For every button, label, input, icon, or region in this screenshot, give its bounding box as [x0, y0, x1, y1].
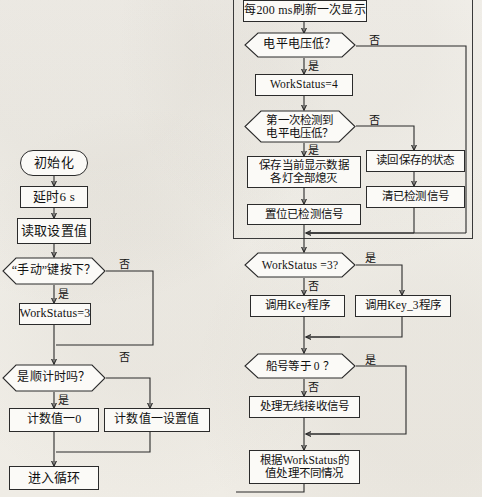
node-save-display-data: 保存当前显示数据 各灯全部熄灭 [247, 156, 361, 188]
node-process-wireless: 处理无线接收信号 [249, 396, 360, 418]
label-level-yes: 是 [308, 61, 319, 72]
node-count-setting: 计数值一设置值 [104, 408, 210, 432]
node-first-detect-decision: 第一次检测到 电平电压低？ [244, 110, 356, 143]
node-level-low-decision: 电平电压低？ [244, 32, 356, 58]
node-call-key3: 调用Key_3程序 [355, 295, 451, 317]
node-label: 船号等于 0 ？ [244, 353, 356, 379]
node-clear-detected-flag: 清已检测信号 [366, 186, 465, 208]
node-init: 初始化 [20, 150, 88, 176]
node-label: 电平电压低？ [244, 32, 356, 58]
label-ws3-no: 否 [308, 281, 319, 292]
node-call-key: 调用Key程序 [250, 295, 345, 317]
label-first-no: 否 [369, 115, 380, 126]
node-read-setting: 读取设置值 [17, 218, 91, 244]
node-label: 第一次检测到 电平电压低？ [244, 110, 356, 143]
node-workstatus-4: WorkStatus=4 [255, 74, 353, 96]
label-ship-yes: 是 [365, 355, 376, 366]
label-ship-no: 否 [308, 382, 319, 393]
label-count-yes: 是 [58, 395, 69, 406]
node-label: 是顺计时吗？ [2, 364, 106, 392]
label-count-no: 否 [119, 352, 130, 363]
node-set-detected-flag: 置位已检测信号 [247, 204, 361, 225]
node-delay: 延时6 s [20, 186, 88, 208]
node-refresh-display: 每200 ms刷新一次显示 [243, 0, 367, 22]
node-enter-loop: 进入循环 [9, 466, 99, 490]
node-workstatus-3: WorkStatus=3 [19, 303, 91, 325]
node-ship-number-decision: 船号等于 0 ？ [244, 353, 356, 379]
label-level-no: 否 [369, 35, 380, 46]
node-manual-key-decision: “手动”键按下？ [2, 257, 106, 285]
label-manual-yes: 是 [58, 289, 69, 300]
label-first-yes: 是 [308, 145, 319, 156]
node-handle-by-workstatus: 根据WorkStatus的 值处理不同情况 [249, 450, 360, 484]
flowchart-canvas: 初始化 延时6 s 读取设置值 “手动”键按下？ WorkStatus=3 是顺… [0, 0, 482, 497]
label-ws3-yes: 是 [365, 253, 376, 264]
node-read-back-state: 读回保存的状态 [366, 150, 465, 172]
node-label: “手动”键按下？ [2, 257, 106, 285]
node-workstatus-is-3-decision: WorkStatus =3? [244, 252, 356, 278]
node-count-up-decision: 是顺计时吗？ [2, 364, 106, 392]
node-label: WorkStatus =3? [244, 252, 356, 278]
node-count-zero: 计数值一0 [9, 408, 99, 432]
label-manual-no: 否 [119, 259, 130, 270]
